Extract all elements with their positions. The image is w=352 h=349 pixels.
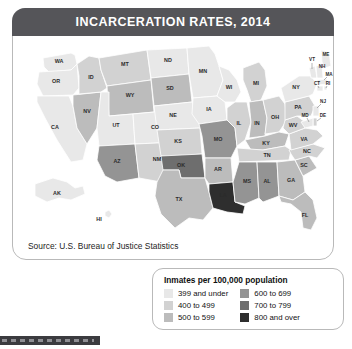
state-label-VT: VT (309, 57, 315, 62)
legend-column-left: 399 and under 400 to 499 500 to 599 (164, 288, 228, 323)
legend-item: 500 to 599 (164, 312, 228, 323)
state-label-ID: ID (88, 74, 93, 80)
legend-column-right: 600 to 699 700 to 799 800 and over (240, 288, 300, 323)
state-label-RI: RI (326, 81, 331, 86)
source-note: Source: U.S. Bureau of Justice Statistic… (28, 241, 178, 251)
legend-swatch (240, 301, 249, 310)
page-edge-artifact (0, 336, 100, 345)
state-label-MS: MS (243, 178, 251, 184)
state-label-WY: WY (126, 92, 135, 98)
state-label-MN: MN (199, 68, 207, 74)
legend-label: 700 to 799 (254, 301, 291, 310)
state-label-LA: LA (219, 192, 226, 198)
state-label-TX: TX (176, 196, 183, 202)
leader-DE (317, 118, 321, 121)
state-label-MT: MT (121, 61, 129, 67)
state-label-OR: OR (52, 78, 60, 84)
state-label-WV: WV (289, 122, 298, 128)
state-label-GA: GA (287, 177, 295, 183)
legend-label: 400 to 499 (178, 301, 215, 310)
state-label-HI: HI (96, 216, 102, 222)
legend-swatch (240, 313, 249, 322)
state-FL (279, 192, 317, 230)
state-label-SD: SD (166, 85, 174, 91)
legend-swatch (164, 289, 173, 298)
state-label-KY: KY (262, 140, 270, 146)
page-title: INCARCERATION RATES, 2014 (76, 15, 271, 29)
state-TX (155, 170, 213, 228)
legend-item: 399 and under (164, 288, 228, 299)
state-label-NY: NY (292, 84, 300, 90)
legend-item: 600 to 699 (240, 288, 300, 299)
state-label-OK: OK (177, 162, 185, 168)
state-label-NH: NH (319, 64, 326, 69)
state-label-NC: NC (303, 148, 311, 154)
legend-swatch (164, 301, 173, 310)
state-label-CA: CA (51, 124, 59, 130)
state-label-MI: MI (253, 80, 259, 86)
state-label-SC: SC (300, 162, 308, 168)
state-label-DE: DE (320, 113, 326, 118)
state-label-TN: TN (263, 152, 270, 158)
legend-title: Inmates per 100,000 population (164, 275, 333, 285)
state-HI (105, 210, 112, 218)
state-label-NV: NV (83, 108, 91, 114)
state-label-NM: NM (153, 156, 162, 162)
state-label-WA: WA (55, 58, 64, 64)
state-label-IL: IL (237, 120, 242, 126)
legend-item: 400 to 499 (164, 300, 228, 311)
state-label-CT: CT (314, 81, 320, 86)
state-label-OH: OH (271, 114, 279, 120)
state-label-NJ: NJ (320, 99, 326, 104)
state-label-ND: ND (164, 57, 172, 63)
incarceration-rates-map-figure: INCARCERATION RATES, 2014 (0, 0, 352, 349)
state-label-IN: IN (254, 120, 259, 126)
state-label-UT: UT (112, 122, 120, 128)
map-legend: Inmates per 100,000 population 399 and u… (152, 268, 344, 330)
state-label-AZ: AZ (113, 158, 121, 164)
legend-swatch (164, 313, 173, 322)
state-label-VA: VA (300, 136, 307, 142)
state-NJ (313, 106, 319, 116)
legend-label: 800 and over (254, 313, 300, 322)
state-label-AL: AL (263, 178, 271, 184)
state-label-WI: WI (226, 84, 233, 90)
state-label-MO: MO (214, 136, 223, 142)
legend-item: 700 to 799 (240, 300, 300, 311)
state-label-NE: NE (169, 112, 177, 118)
state-MT (99, 50, 151, 86)
state-label-PA: PA (294, 104, 301, 110)
state-label-FL: FL (302, 212, 309, 218)
state-label-MA: MA (325, 72, 333, 77)
state-label-ME: ME (323, 52, 330, 57)
legend-label: 399 and under (178, 289, 228, 298)
legend-item: 800 and over (240, 312, 300, 323)
state-DE (313, 118, 317, 126)
state-label-MD: MD (301, 113, 309, 118)
legend-swatch (240, 289, 249, 298)
figure-title-bar: INCARCERATION RATES, 2014 (12, 8, 334, 36)
state-label-IA: IA (206, 106, 211, 112)
state-label-KS: KS (174, 138, 182, 144)
state-CT (317, 86, 323, 91)
state-label-AR: AR (214, 166, 222, 172)
legend-label: 600 to 699 (254, 289, 291, 298)
state-label-CO: CO (151, 124, 159, 130)
legend-label: 500 to 599 (178, 313, 215, 322)
state-label-AK: AK (53, 190, 61, 196)
us-choropleth-map: WA OR CA NV ID MT WY UT CO AZ NM ND SD N… (13, 36, 333, 238)
